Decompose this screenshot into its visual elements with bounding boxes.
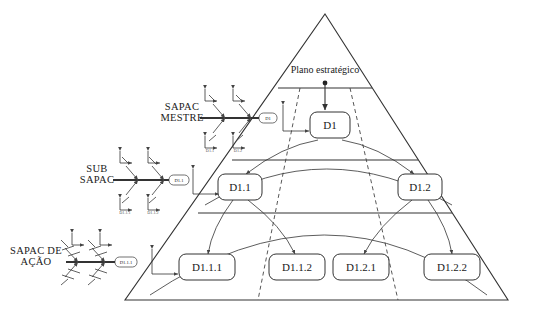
fishbone-feeder-upper-right bbox=[88, 240, 95, 247]
axis-marker-mestre-a bbox=[205, 89, 217, 101]
edge-d12-d122 bbox=[428, 200, 452, 254]
node-d1-1-2[interactable]: D1.1.2 bbox=[269, 254, 325, 280]
fishbone-feeder-lower-right bbox=[149, 197, 156, 203]
edge-plano-to-d1 bbox=[323, 81, 328, 110]
node-label: D1.1.1 bbox=[192, 261, 222, 273]
axis-marker-acao-a bbox=[72, 233, 84, 245]
edges-level-2-to-3 bbox=[208, 200, 452, 254]
fishbone-bone-lower-right bbox=[239, 118, 251, 133]
fishbone-bone-lower-right bbox=[92, 262, 105, 277]
node-label: D1.2 bbox=[409, 181, 431, 193]
node-d1[interactable]: D1 bbox=[310, 112, 350, 138]
axis-marker-acao-b bbox=[100, 233, 112, 245]
fishbone-title-line1: SUB bbox=[86, 163, 107, 174]
fishbone-sapac-de-acao: D1.1.1 SAPAC DE AÇÃO bbox=[10, 233, 137, 285]
fishbone-bone-label-1: D1.1 bbox=[206, 148, 214, 153]
axis-marker-mestre-c bbox=[205, 136, 217, 148]
edge-d11-d112 bbox=[248, 200, 295, 254]
edge-d11-d111 bbox=[208, 200, 233, 254]
fishbone-bone-upper-right bbox=[152, 166, 164, 180]
node-label: D1 bbox=[323, 119, 336, 131]
apex-label: Plano estratégico bbox=[291, 64, 360, 75]
fishbone-title-line1: SAPAC DE bbox=[10, 245, 62, 256]
node-d1-1-1[interactable]: D1.1.1 bbox=[179, 254, 235, 280]
axis-marker-mestre-b bbox=[233, 89, 245, 101]
fishbone-feeder-lower-right bbox=[88, 279, 95, 285]
fishbone-feeder-lower-left bbox=[209, 135, 216, 141]
axis-marker-pyramid-2 bbox=[193, 169, 219, 194]
node-label: D1.2.1 bbox=[346, 261, 376, 273]
fishbone-feeder-lower-left bbox=[122, 197, 129, 203]
node-d1-2-1[interactable]: D1.2.1 bbox=[333, 254, 389, 280]
axis-marker-pyramid-1 bbox=[283, 105, 309, 131]
edge-d12-d121 bbox=[364, 200, 412, 254]
node-d1-1[interactable]: D1.1 bbox=[218, 174, 262, 200]
fishbone-title-line2: SAPAC bbox=[80, 174, 114, 185]
axis-marker-sub-b bbox=[148, 151, 160, 163]
node-label: D1.1 bbox=[229, 181, 251, 193]
fishbone-sub-sapac: D1.1 SUB SAPAC D1.1.1 D1.1.2 bbox=[80, 151, 189, 215]
fishbone-bone-upper-left bbox=[213, 104, 225, 118]
fishbone-bone-upper-right bbox=[239, 104, 251, 118]
fishbone-bone-lower-left bbox=[213, 118, 225, 133]
fishbone-bone-label-2: D1.1.2 bbox=[147, 210, 158, 215]
fishbone-subbone-ll-1 bbox=[62, 275, 74, 279]
axis-marker-sub-d bbox=[148, 198, 160, 210]
fishbone-bone-lower-left bbox=[65, 262, 78, 277]
fishbone-title-line2: AÇÃO bbox=[21, 256, 52, 267]
fishbone-title-line1: SAPAC bbox=[165, 101, 199, 112]
edge-d1-d12 bbox=[342, 140, 414, 174]
fishbone-head-label: D1 bbox=[265, 116, 271, 121]
fishbone-title-line2: MESTRE bbox=[160, 112, 203, 123]
fishbone-bone-label-1: D1.1.1 bbox=[119, 210, 130, 215]
fishbone-bone-upper-left bbox=[126, 166, 138, 180]
fishbone-bone-label-2: D1.2 bbox=[234, 148, 242, 153]
diagram-canvas: D1 SAPAC MESTRE D1.1 D1.2 bbox=[0, 0, 535, 314]
fishbone-subbone-lr-1 bbox=[89, 275, 101, 279]
axis-marker-pyramid-3 bbox=[152, 249, 178, 274]
fishbone-head-label: D1.1 bbox=[174, 178, 184, 183]
node-label: D1.1.2 bbox=[282, 261, 312, 273]
edge-d1-d11 bbox=[246, 140, 318, 174]
diagram-svg: D1 SAPAC MESTRE D1.1 D1.2 bbox=[0, 0, 535, 314]
node-d1-2[interactable]: D1.2 bbox=[398, 174, 442, 200]
fishbone-feeder-upper-left bbox=[61, 240, 68, 247]
node-d1-2-2[interactable]: D1.2.2 bbox=[424, 254, 480, 280]
fishbone-head-label: D1.1.1 bbox=[120, 260, 133, 265]
fishbone-sapac-mestre: D1 SAPAC MESTRE D1.1 D1.2 bbox=[160, 89, 277, 153]
fishbone-bone-lower-left bbox=[126, 180, 138, 195]
node-label: D1.2.2 bbox=[437, 261, 467, 273]
fishbone-feeder-lower-left bbox=[61, 279, 68, 285]
fishbone-bone-lower-right bbox=[152, 180, 164, 195]
